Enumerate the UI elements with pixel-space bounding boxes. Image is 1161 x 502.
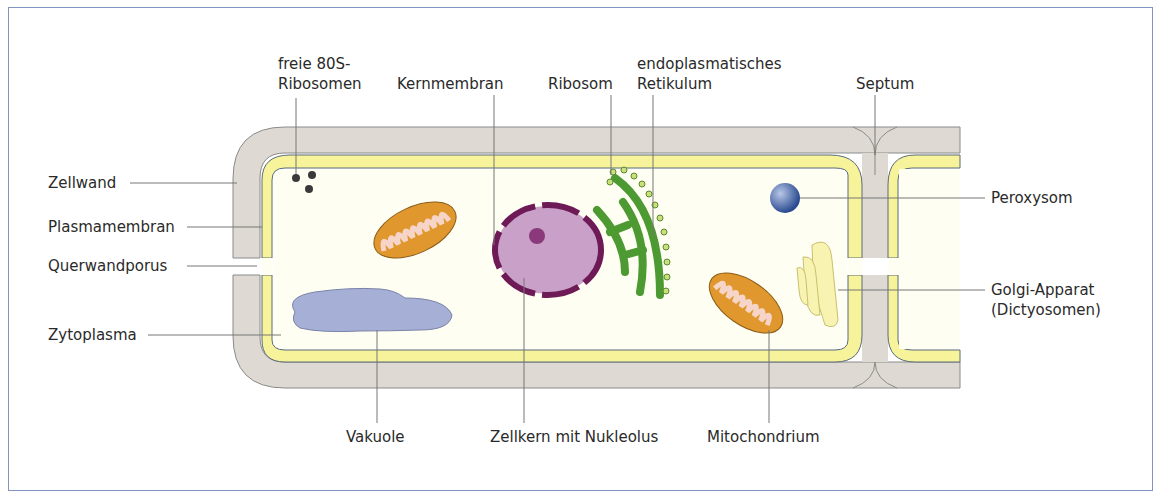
label-plasma-membrane: Plasmamembran [48,217,175,237]
label-cytoplasm: Zytoplasma [48,325,137,345]
label-free-ribosomes: freie 80S- Ribosomen [278,54,362,94]
nucleus [495,205,601,295]
label-mitochondrion: Mitochondrium [707,427,820,447]
label-vacuole: Vakuole [346,427,405,447]
label-peroxisome: Peroxysom [991,188,1073,208]
label-golgi: Golgi-Apparat (Dictyosomen) [991,280,1101,320]
label-nucleus: Zellkern mit Nukleolus [490,427,658,447]
label-nuclear-membrane: Kernmembran [397,74,504,94]
right-cell [888,155,960,362]
peroxisome [770,183,800,213]
label-septum: Septum [856,74,914,94]
label-ribosome: Ribosom [548,74,613,94]
label-cross-wall-pore: Querwandporus [48,256,167,276]
label-cell-wall: Zellwand [48,173,116,193]
label-er: endoplasmatisches Retikulum [637,54,782,94]
